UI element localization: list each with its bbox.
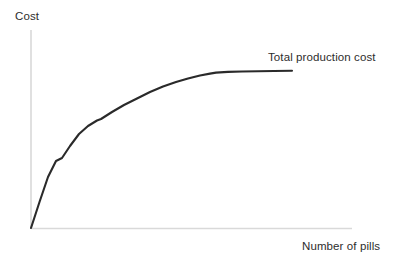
- cost-curve-chart: Cost Number of pills Total production co…: [0, 0, 407, 260]
- y-axis-label: Cost: [15, 10, 39, 22]
- chart-plot-area: [0, 0, 407, 260]
- series-label-total-production-cost: Total production cost: [268, 51, 376, 63]
- total-production-cost-curve: [31, 71, 292, 228]
- x-axis-label: Number of pills: [302, 240, 380, 252]
